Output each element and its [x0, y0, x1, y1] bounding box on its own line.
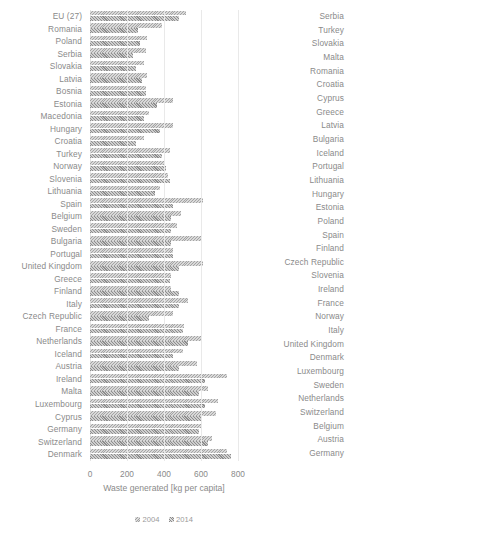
category-label: Netherlands: [0, 335, 85, 348]
legend-item-2014[interactable]: 2014: [169, 515, 193, 524]
category-label: Estonia: [0, 98, 85, 111]
category-label: Iceland: [0, 348, 85, 361]
category-label: Netherlands: [262, 392, 347, 406]
category-labels-recycling: SerbiaTurkeySlovakiaMaltaRomaniaCroatiaC…: [262, 10, 347, 461]
category-label: Portugal: [0, 248, 85, 261]
bar-2014: [90, 129, 160, 134]
category-label: Norway: [262, 310, 347, 324]
bar-2014: [90, 404, 205, 409]
bar-2014: [90, 429, 199, 434]
gridline-400: [164, 10, 165, 461]
bar-2014: [90, 254, 173, 259]
category-label: Belgium: [262, 420, 347, 434]
category-label: Turkey: [262, 24, 347, 38]
category-label: Croatia: [0, 135, 85, 148]
bar-2004: [90, 411, 216, 416]
bar-2004: [90, 98, 173, 103]
category-label: Bosnia: [0, 85, 85, 98]
bar-2004: [90, 11, 186, 16]
category-label: Lithuania: [0, 185, 85, 198]
category-label: Estonia: [262, 201, 347, 215]
bar-2004: [90, 111, 149, 116]
category-label: Serbia: [0, 48, 85, 61]
category-label: Malta: [0, 385, 85, 398]
bar-2004: [90, 261, 203, 266]
bar-2014: [90, 354, 173, 359]
category-label: Luxembourg: [0, 398, 85, 411]
category-label: Greece: [262, 106, 347, 120]
category-label: Denmark: [0, 448, 85, 461]
bar-2014: [90, 454, 231, 459]
bar-2014: [90, 91, 146, 96]
category-label: France: [0, 323, 85, 336]
bar-2014: [90, 41, 140, 46]
legend-item-2004[interactable]: 2004: [135, 515, 159, 524]
category-label: Belgium: [0, 210, 85, 223]
legend-label-2014: 2014: [176, 515, 193, 524]
bar-2004: [90, 311, 173, 316]
x-tick-label-400: 400: [157, 469, 171, 479]
bar-2014: [90, 179, 170, 184]
bar-2014: [90, 191, 155, 196]
category-label: Ireland: [0, 373, 85, 386]
gridline-800: [238, 10, 239, 461]
category-label: Finland: [262, 242, 347, 256]
bar-2004: [90, 449, 227, 454]
x-tick-label-600: 600: [194, 469, 208, 479]
bar-2004: [90, 36, 147, 41]
category-label: Serbia: [262, 10, 347, 24]
bar-2014: [90, 16, 179, 21]
category-label: Greece: [0, 273, 85, 286]
x-tick-label-800: 800: [231, 469, 245, 479]
category-label: Cyprus: [262, 92, 347, 106]
bar-2014: [90, 441, 208, 446]
gridline-200: [127, 10, 128, 461]
bar-2004: [90, 236, 201, 241]
bar-2004: [90, 336, 201, 341]
category-label: Spain: [0, 198, 85, 211]
bar-2004: [90, 399, 218, 404]
gridline-600: [201, 10, 202, 461]
bar-2014: [90, 204, 173, 209]
bar-2014: [90, 28, 138, 33]
bar-2004: [90, 374, 227, 379]
legend-label-2004: 2004: [143, 515, 160, 524]
category-label: Italy: [0, 298, 85, 311]
bar-2014: [90, 291, 179, 296]
bar-2014: [90, 304, 179, 309]
bar-2004: [90, 248, 173, 253]
x-tick-label-200: 200: [120, 469, 134, 479]
bar-2014: [90, 216, 171, 221]
bar-2014: [90, 279, 170, 284]
category-labels-waste: EU (27)RomaniaPolandSerbiaSlovakiaLatvia…: [0, 10, 85, 461]
category-label: Germany: [262, 447, 347, 461]
category-label: Slovenia: [0, 173, 85, 186]
bar-2004: [90, 61, 144, 66]
category-label: Turkey: [0, 148, 85, 161]
category-label: Portugal: [262, 160, 347, 174]
bar-2004: [90, 386, 208, 391]
category-label: Poland: [0, 35, 85, 48]
plot-area-waste: [90, 10, 238, 461]
category-label: Romania: [262, 65, 347, 79]
bar-2004: [90, 136, 144, 141]
category-label: Norway: [0, 160, 85, 173]
category-label: Poland: [262, 215, 347, 229]
legend-waste: 2004 2014: [60, 515, 268, 524]
bar-2004: [90, 198, 203, 203]
category-label: Latvia: [262, 119, 347, 133]
bar-2014: [90, 329, 183, 334]
category-label: Macedonia: [0, 110, 85, 123]
bar-2004: [90, 173, 168, 178]
bar-2014: [90, 366, 179, 371]
bar-2014: [90, 316, 149, 321]
x-axis-waste: 0200400600800: [90, 463, 238, 483]
category-label: France: [262, 297, 347, 311]
bar-2014: [90, 341, 188, 346]
category-label: Italy: [262, 324, 347, 338]
bar-2014: [90, 241, 171, 246]
category-label: Cyprus: [0, 411, 85, 424]
category-label: Romania: [0, 23, 85, 36]
category-label: Switzerland: [262, 406, 347, 420]
bar-2014: [90, 266, 179, 271]
